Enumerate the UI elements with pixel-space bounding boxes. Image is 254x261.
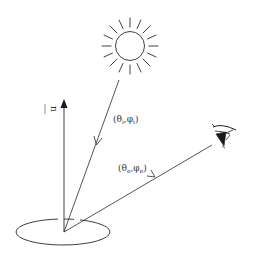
normal-label: n	[49, 106, 59, 112]
incident-ray	[64, 80, 119, 232]
emergent-angle-label: (θe,φe)	[118, 163, 147, 174]
sun-icon	[102, 18, 158, 74]
surface-ellipse	[16, 219, 110, 245]
emergent-ray	[64, 145, 212, 232]
incident-angle-label: (θi,φi)	[113, 114, 138, 125]
normal-arrow	[61, 99, 68, 232]
reflectance-geometry-diagram: n (θi,φi) (θe,φe)	[0, 0, 254, 261]
eye-icon	[212, 124, 236, 148]
